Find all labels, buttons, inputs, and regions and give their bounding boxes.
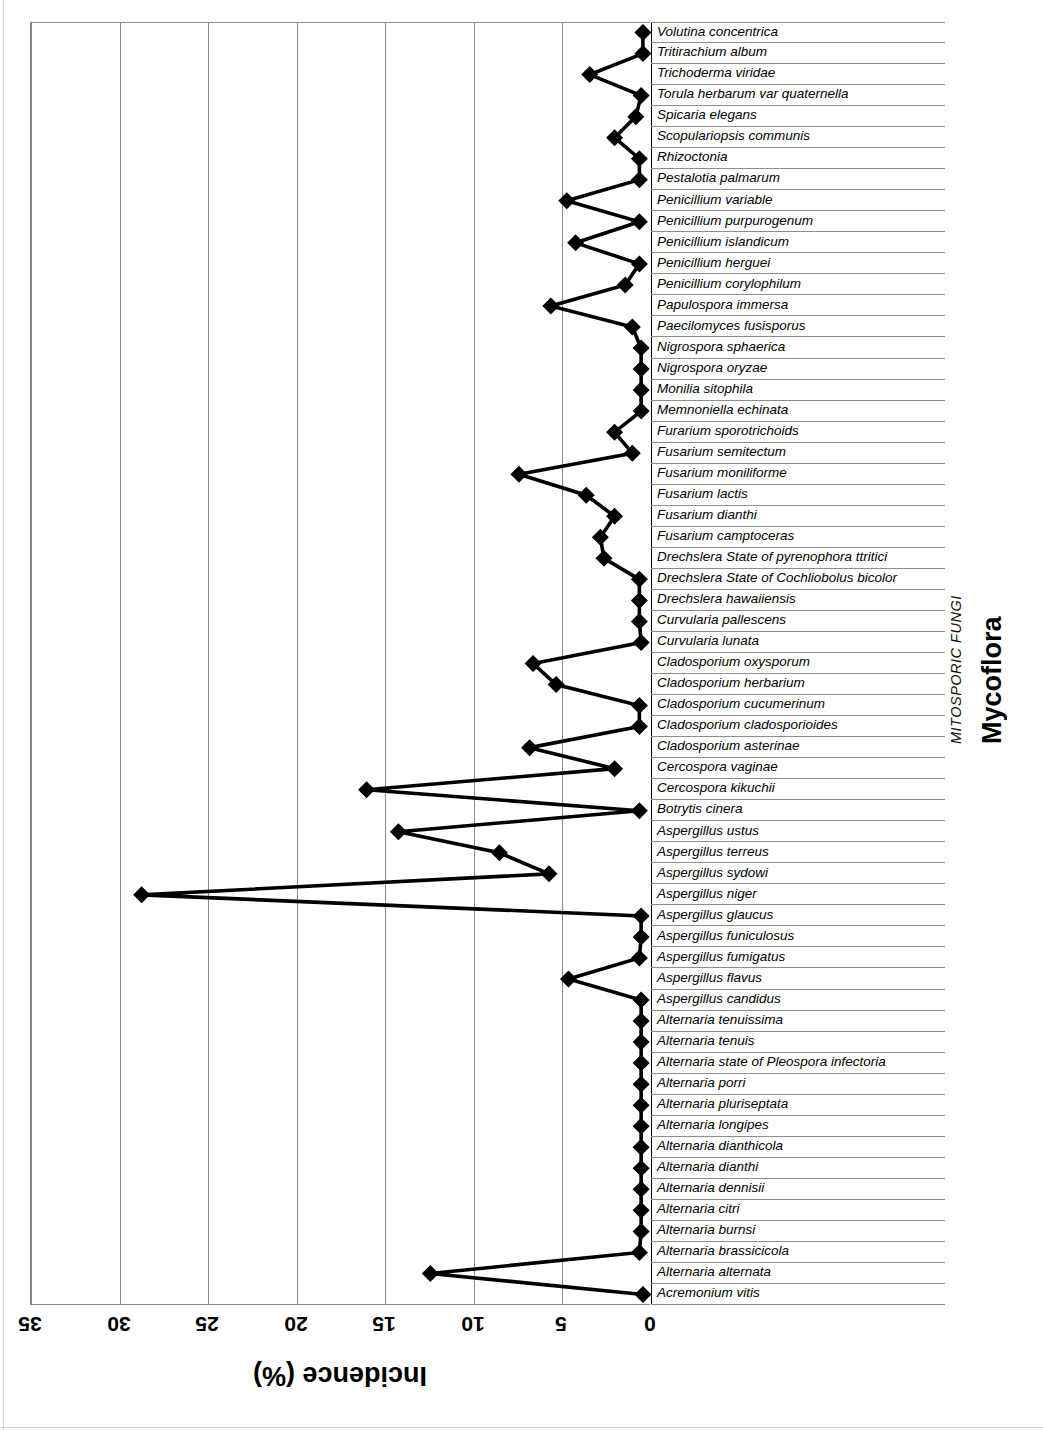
x-tick-25: 25 <box>187 1312 227 1336</box>
category-label: Aspergillus terreus <box>651 845 769 859</box>
gridline-35 <box>31 22 32 1305</box>
scan-edge-left <box>3 0 4 1430</box>
category-label: Aspergillus funiculosus <box>651 929 794 943</box>
gridline-10 <box>474 22 475 1305</box>
category-row: Paecilomyces fusisporus <box>651 316 945 337</box>
category-row: Drechslera State of Cochliobolus bicolor <box>651 569 945 590</box>
category-label: Volutina concentrica <box>651 25 778 39</box>
category-label: Fusarium dianthi <box>651 508 757 522</box>
category-label: Alternaria tenuis <box>651 1034 755 1048</box>
category-label: Drechslera hawaiiensis <box>651 592 796 606</box>
category-label: Cladosporium asterinae <box>651 739 800 753</box>
category-label: Monilia sitophila <box>651 382 753 396</box>
category-label: Alternaria citri <box>651 1202 740 1216</box>
category-row: Fusarium camptoceras <box>651 527 945 548</box>
category-row: Aspergillus funiculosus <box>651 926 945 947</box>
category-label: Cercospora kikuchii <box>651 781 775 795</box>
x-tick-30: 30 <box>99 1312 139 1336</box>
category-label: Alternaria dianthi <box>651 1160 758 1174</box>
x-tick-15: 15 <box>364 1312 404 1336</box>
category-row: Acremonium vitis <box>651 1284 945 1305</box>
category-label: Cladosporium cladosporioides <box>651 718 838 732</box>
category-label: Pestalotia palmarum <box>651 171 780 185</box>
x-tick-20: 20 <box>276 1312 316 1336</box>
category-label: Curvularia pallescens <box>651 613 786 627</box>
category-row: Rhizoctonia <box>651 148 945 169</box>
category-row: Botrytis cinera <box>651 800 945 821</box>
category-label: Alternaria pluriseptata <box>651 1097 788 1111</box>
category-row: Scopulariopsis communis <box>651 127 945 148</box>
category-row: Aspergillus terreus <box>651 842 945 863</box>
category-row: Curvularia lunata <box>651 632 945 653</box>
category-row: Monilia sitophila <box>651 380 945 401</box>
category-label: Aspergillus flavus <box>651 971 762 985</box>
category-row: Pestalotia palmarum <box>651 169 945 190</box>
category-label: Nigrospora sphaerica <box>651 340 785 354</box>
category-row: Papulospora immersa <box>651 295 945 316</box>
category-label: Botrytis cinera <box>651 802 743 816</box>
category-label: Aspergillus niger <box>651 887 757 901</box>
category-row: Fusarium dianthi <box>651 506 945 527</box>
category-label: Alternaria state of Pleospora infectoria <box>651 1055 886 1069</box>
category-row: Penicillium islandicum <box>651 232 945 253</box>
category-label: Alternaria longipes <box>651 1118 769 1132</box>
category-label: Alternaria tenuissima <box>651 1013 783 1027</box>
scan-edge-bottom <box>0 1427 1043 1428</box>
category-row: Aspergillus glaucus <box>651 905 945 926</box>
category-row: Trichoderma viridae <box>651 64 945 85</box>
category-row: Alternaria burnsi <box>651 1221 945 1242</box>
category-row: Volutina concentrica <box>651 22 945 43</box>
gridline-30 <box>120 22 121 1305</box>
category-label: Drechslera State of Cochliobolus bicolor <box>651 571 897 585</box>
category-label: Aspergillus ustus <box>651 824 759 838</box>
category-label: Alternaria brassicicola <box>651 1244 789 1258</box>
x-axis-title: Incidence (%) <box>0 1360 680 1391</box>
category-row: Alternaria citri <box>651 1200 945 1221</box>
category-row: Alternaria brassicicola <box>651 1242 945 1263</box>
category-row: Nigrospora sphaerica <box>651 337 945 358</box>
category-label: Curvularia lunata <box>651 634 759 648</box>
x-tick-10: 10 <box>453 1312 493 1336</box>
category-row: Aspergillus sydowi <box>651 863 945 884</box>
category-label: Fusarium camptoceras <box>651 529 794 543</box>
category-label: Aspergillus sydowi <box>651 866 768 880</box>
category-label: Fusarium semitectum <box>651 445 786 459</box>
group-label: MITOSPORIC FUNGI <box>944 470 968 870</box>
category-row: Furarium sporotrichoids <box>651 422 945 443</box>
x-tick-5: 5 <box>541 1312 581 1336</box>
gridline-25 <box>208 22 209 1305</box>
category-label: Tritirachium album <box>651 45 767 59</box>
category-row: Cladosporium oxysporum <box>651 653 945 674</box>
category-row: Curvularia pallescens <box>651 611 945 632</box>
category-row: Cercospora vaginae <box>651 758 945 779</box>
category-label: Drechslera State of pyrenophora ttritici <box>651 550 887 564</box>
category-row: Drechslera hawaiiensis <box>651 590 945 611</box>
category-row: Penicillium herguei <box>651 253 945 274</box>
category-label: Spicaria elegans <box>651 108 757 122</box>
category-label: Scopulariopsis communis <box>651 129 810 143</box>
category-label: Cladosporium cucumerinum <box>651 697 825 711</box>
x-tick-0: 0 <box>630 1312 670 1336</box>
category-label: Fusarium moniliforme <box>651 466 787 480</box>
category-label: Alternaria alternata <box>651 1265 771 1279</box>
category-row: Penicillium corylophilum <box>651 274 945 295</box>
chart-title: Mycoflora <box>972 520 1012 840</box>
category-label: Aspergillus glaucus <box>651 908 773 922</box>
category-row: Cladosporium cladosporioides <box>651 716 945 737</box>
category-row: Alternaria dianthi <box>651 1158 945 1179</box>
category-row: Alternaria alternata <box>651 1263 945 1284</box>
category-label: Cladosporium herbarium <box>651 676 805 690</box>
category-label: Papulospora immersa <box>651 298 788 312</box>
category-label: Penicillium islandicum <box>651 235 789 249</box>
category-row: Aspergillus ustus <box>651 821 945 842</box>
category-row: Nigrospora oryzae <box>651 359 945 380</box>
category-row: Fusarium moniliforme <box>651 464 945 485</box>
category-row: Cercospora kikuchii <box>651 779 945 800</box>
category-label: Fusarium lactis <box>651 487 748 501</box>
gridline-5 <box>562 22 563 1305</box>
category-label: Alternaria burnsi <box>651 1223 755 1237</box>
category-row: Alternaria state of Pleospora infectoria <box>651 1053 945 1074</box>
category-label: Rhizoctonia <box>651 150 728 164</box>
category-label: Paecilomyces fusisporus <box>651 319 806 333</box>
category-row: Memnoniella echinata <box>651 401 945 422</box>
